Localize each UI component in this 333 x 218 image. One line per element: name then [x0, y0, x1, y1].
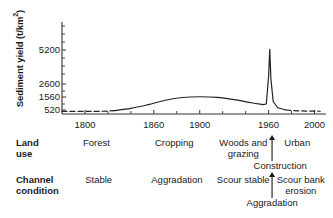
- annotation-line-1: Woods and: [219, 137, 267, 148]
- row-header-line-1: Land: [16, 137, 39, 148]
- annotation-aggradation: Aggradation: [151, 174, 202, 185]
- construction-arrow: [269, 135, 275, 161]
- annotation-line-2: erosion: [277, 185, 325, 196]
- curve-segment-observed: [114, 49, 286, 110]
- annotation-scour-stable: Scour stable: [217, 174, 270, 185]
- row-header-land-use: Landuse: [16, 137, 39, 159]
- row-header-line-2: condition: [16, 185, 59, 196]
- sediment-yield-curve: [62, 49, 320, 111]
- aggradation-arrow: [269, 172, 275, 198]
- arrow-label-construction: Construction: [254, 160, 307, 171]
- annotation-scour-bank-erosion: Scour bankerosion: [277, 174, 325, 196]
- annotation-line-1: Scour bank: [277, 174, 325, 185]
- arrow-label-aggradation: Aggradation: [247, 197, 298, 208]
- annotation-urban: Urban: [284, 137, 310, 148]
- annotation-line-2: grazing: [219, 148, 267, 159]
- row-header-line-2: use: [16, 148, 39, 159]
- annotation-stable: Stable: [85, 174, 112, 185]
- curve-segment-pre-settlement: [62, 111, 114, 112]
- annotation-forest: Forest: [83, 137, 110, 148]
- row-header-channel-condition: Channelcondition: [16, 174, 59, 196]
- axes: [62, 22, 326, 114]
- sediment-yield-figure: Sediment yield (t/km2) 520156026005200 1…: [0, 0, 333, 218]
- row-header-line-1: Channel: [16, 174, 59, 185]
- curve-segment-projected: [286, 110, 320, 111]
- annotation-woods-and-grazing: Woods andgrazing: [219, 137, 267, 159]
- annotation-cropping: Cropping: [155, 137, 194, 148]
